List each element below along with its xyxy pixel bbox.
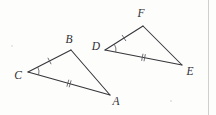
vertex-label-d: D xyxy=(91,40,101,52)
vertex-label-f: F xyxy=(136,7,145,19)
speck xyxy=(11,45,13,47)
edge-fe xyxy=(143,26,182,65)
vertex-label-b: B xyxy=(65,33,72,45)
scan-artifacts xyxy=(11,0,209,115)
geometry-figure: C B A D F E xyxy=(0,0,216,115)
vertex-label-a: A xyxy=(111,95,120,107)
tick xyxy=(144,55,145,61)
edge-de xyxy=(105,50,182,65)
tick-group-df xyxy=(122,35,125,40)
edge-ba xyxy=(71,50,110,95)
angle-arc-d xyxy=(114,44,116,52)
triangle-abc-group: C B A xyxy=(14,33,120,107)
edge-ca xyxy=(28,72,110,95)
vertex-label-c: C xyxy=(14,69,22,81)
tick xyxy=(142,54,143,60)
angle-arc-c xyxy=(38,67,39,75)
tick xyxy=(122,35,125,40)
speck xyxy=(170,100,172,102)
triangle-def-group: D F E xyxy=(91,7,194,77)
triangles-diagram: C B A D F E xyxy=(0,0,216,115)
vertex-label-e: E xyxy=(185,65,193,77)
